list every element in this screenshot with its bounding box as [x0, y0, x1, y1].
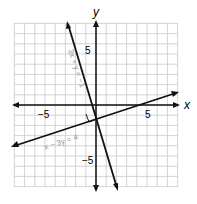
line-x-minus-3y	[11, 91, 179, 147]
x-axis-label: x	[183, 98, 191, 112]
y-tick-neg5: −5	[82, 155, 94, 166]
y-axis-label: y	[92, 5, 100, 19]
coordinate-plane: x y −5 5 5 −5 3x + y = −1 x − 3y = 4	[0, 0, 197, 204]
x-tick-5: 5	[145, 109, 151, 120]
y-tick-5: 5	[85, 45, 91, 56]
x-tick-neg5: −5	[38, 109, 50, 120]
